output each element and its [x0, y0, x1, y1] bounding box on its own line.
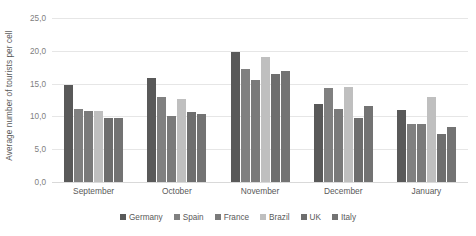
bar[interactable]: [167, 116, 176, 182]
legend-item[interactable]: UK: [301, 213, 321, 222]
bar[interactable]: [177, 99, 186, 182]
x-axis-tick-label: September: [52, 186, 135, 202]
legend-label: Brazil: [269, 213, 289, 222]
legend-item[interactable]: Brazil: [260, 213, 289, 222]
bar[interactable]: [157, 97, 166, 182]
bar[interactable]: [94, 111, 103, 182]
y-axis-tick-label: 10,0: [30, 112, 46, 121]
bar[interactable]: [84, 111, 93, 183]
legend-label: Germany: [129, 213, 163, 222]
legend-label: Italy: [341, 213, 356, 222]
bar[interactable]: [407, 124, 416, 182]
legend-label: UK: [310, 213, 321, 222]
x-axis-tick-label: December: [302, 186, 385, 202]
bar[interactable]: [447, 127, 456, 182]
bar-group: [52, 18, 135, 182]
y-axis-tick-label: 25,0: [30, 14, 46, 23]
legend-item[interactable]: Italy: [332, 213, 356, 222]
bar[interactable]: [261, 57, 270, 182]
legend-swatch-icon: [174, 214, 180, 220]
bar-group: [302, 18, 385, 182]
bar-group: [385, 18, 468, 182]
legend-swatch-icon: [332, 214, 338, 220]
bar[interactable]: [397, 110, 406, 182]
bar[interactable]: [231, 52, 240, 182]
bar[interactable]: [314, 104, 323, 182]
bar[interactable]: [437, 134, 446, 182]
bar[interactable]: [427, 97, 436, 182]
bar[interactable]: [364, 106, 373, 182]
bar[interactable]: [64, 85, 73, 182]
bar-group: [218, 18, 301, 182]
legend-item[interactable]: Germany: [120, 213, 163, 222]
bar[interactable]: [334, 109, 343, 182]
bar[interactable]: [187, 112, 196, 182]
legend-label: France: [224, 213, 249, 222]
bar[interactable]: [114, 118, 123, 182]
bar-chart: Average number of tourists per cell 25,0…: [0, 0, 476, 236]
legend-item[interactable]: France: [215, 213, 249, 222]
legend-item[interactable]: Spain: [174, 213, 204, 222]
bar[interactable]: [104, 118, 113, 182]
x-axis-tick-label: November: [218, 186, 301, 202]
legend-swatch-icon: [260, 214, 266, 220]
bar[interactable]: [197, 114, 206, 182]
bar[interactable]: [241, 69, 250, 182]
x-axis-tick-label: January: [385, 186, 468, 202]
y-axis-tick-label: 15,0: [30, 79, 46, 88]
bar[interactable]: [74, 109, 83, 182]
y-axis-tick-labels: 25,020,015,010,05,00,0: [18, 18, 50, 182]
legend-label: Spain: [183, 213, 204, 222]
y-axis-tick-label: 20,0: [30, 46, 46, 55]
y-axis-title-label: Average number of tourists per cell: [5, 30, 14, 160]
bar[interactable]: [417, 124, 426, 182]
bar[interactable]: [281, 71, 290, 182]
bar-group: [135, 18, 218, 182]
bar[interactable]: [324, 88, 333, 182]
bar[interactable]: [344, 87, 353, 182]
legend-swatch-icon: [120, 214, 126, 220]
legend-swatch-icon: [301, 214, 307, 220]
y-axis-title: Average number of tourists per cell: [0, 0, 18, 190]
chart-legend: GermanySpainFranceBrazilUKItaly: [0, 209, 476, 225]
bar[interactable]: [354, 118, 363, 182]
x-axis-tick-labels: SeptemberOctoberNovemberDecemberJanuary: [52, 186, 468, 202]
bar[interactable]: [271, 74, 280, 182]
bar[interactable]: [251, 80, 260, 182]
y-axis-tick-label: 0,0: [35, 178, 46, 187]
x-axis-tick-label: October: [135, 186, 218, 202]
gridline: [52, 182, 468, 183]
plot-area: [52, 18, 468, 182]
legend-swatch-icon: [215, 214, 221, 220]
bar[interactable]: [147, 78, 156, 182]
y-axis-tick-label: 5,0: [35, 145, 46, 154]
bars-layer: [52, 18, 468, 182]
